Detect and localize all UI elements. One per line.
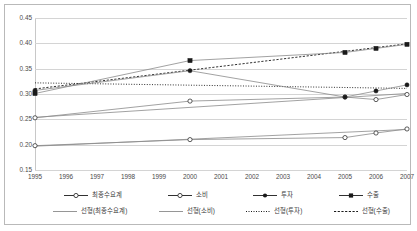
plot-area: 0.150.200.250.300.350.400.45 19951996199… <box>35 18 407 170</box>
x-axis-tick-label: 2003 <box>276 174 290 180</box>
legend-item-label: 선형(수출) <box>362 208 390 214</box>
legend-item[interactable]: 투자 <box>252 191 293 200</box>
data-series-layer <box>35 18 407 170</box>
x-axis-tick-label: 1997 <box>90 174 104 180</box>
legend-key-line-filled-circle <box>252 191 278 200</box>
legend-item-label: 선형(최종수요계) <box>81 208 127 214</box>
legend-item[interactable]: 선형(투자) <box>245 207 302 216</box>
data-point-marker <box>405 92 409 96</box>
x-axis-tick-label: 2001 <box>214 174 228 180</box>
legend-key-line-filled-square <box>338 191 364 200</box>
data-point-marker <box>188 69 192 73</box>
data-point-marker <box>374 89 378 93</box>
legend-item[interactable]: 최종수요계 <box>63 191 122 200</box>
legend-key-line-dashed <box>333 207 359 216</box>
legend-item-label: 최종수요계 <box>92 192 122 198</box>
x-axis-tick-label: 1995 <box>28 174 42 180</box>
series-line <box>35 95 407 118</box>
data-point-marker <box>33 116 37 120</box>
legend-item[interactable]: 수출 <box>338 191 379 200</box>
x-axis-tick-label: 2002 <box>245 174 259 180</box>
data-point-marker <box>343 95 347 99</box>
x-axis-tick-label: 2005 <box>338 174 352 180</box>
x-axis-tick-label: 2000 <box>183 174 197 180</box>
y-axis-tick-label: 0.40 <box>20 40 32 46</box>
data-point-marker <box>33 144 37 148</box>
legend-item[interactable]: 선형(수출) <box>333 207 390 216</box>
chart-frame: 0.150.200.250.300.350.400.45 19951996199… <box>4 4 411 225</box>
data-point-marker <box>374 97 378 101</box>
data-point-marker <box>188 99 192 103</box>
x-axis-tick-label: 2004 <box>307 174 321 180</box>
data-point-marker <box>188 58 192 62</box>
legend-key-line-solid <box>52 207 78 216</box>
y-axis-tick-label: 0.20 <box>20 141 32 147</box>
data-point-marker <box>374 131 378 135</box>
data-point-marker <box>33 91 37 95</box>
chart-legend: 최종수요계소비투자수출 선형(최종수요계)선형(소비)선형(투자)선형(수출) <box>35 187 407 219</box>
legend-key-line-open-circle <box>167 191 193 200</box>
series-line <box>35 71 407 97</box>
legend-item-label: 선형(소비) <box>187 208 215 214</box>
data-point-marker <box>405 83 409 87</box>
trendline <box>35 93 407 117</box>
data-point-marker <box>343 135 347 139</box>
data-point-marker <box>405 127 409 131</box>
gridline <box>35 170 407 171</box>
legend-item-label: 수출 <box>367 192 379 198</box>
legend-row-series: 최종수요계소비투자수출 <box>35 187 407 203</box>
x-axis-tick-label: 1996 <box>59 174 73 180</box>
legend-row-trendlines: 선형(최종수요계)선형(소비)선형(투자)선형(수출) <box>35 203 407 219</box>
x-axis-tick-label: 1998 <box>121 174 135 180</box>
legend-key-line-solid <box>158 207 184 216</box>
legend-item[interactable]: 선형(소비) <box>158 207 215 216</box>
x-axis-tick-label: 1999 <box>152 174 166 180</box>
y-axis-tick-label: 0.30 <box>20 91 32 97</box>
legend-item[interactable]: 소비 <box>167 191 208 200</box>
legend-item-label: 소비 <box>196 192 208 198</box>
data-point-marker <box>374 46 378 50</box>
x-axis-tick-label: 2006 <box>369 174 383 180</box>
y-axis-tick-label: 0.45 <box>20 15 32 21</box>
legend-item-label: 투자 <box>281 192 293 198</box>
data-point-marker <box>405 42 409 46</box>
legend-item[interactable]: 선형(최종수요계) <box>52 207 127 216</box>
y-axis-tick-label: 0.25 <box>20 116 32 122</box>
legend-key-line-dotted <box>245 207 271 216</box>
legend-item-label: 선형(투자) <box>274 208 302 214</box>
legend-key-line-open-circle <box>63 191 89 200</box>
series-line <box>35 44 407 93</box>
trendline <box>35 44 407 89</box>
series-line <box>35 129 407 146</box>
y-axis-tick-label: 0.35 <box>20 65 32 71</box>
data-point-marker <box>343 50 347 54</box>
x-axis-tick-label: 2007 <box>400 174 414 180</box>
data-point-marker <box>188 138 192 142</box>
